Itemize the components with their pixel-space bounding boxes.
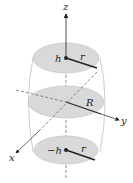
top-height-label: h — [55, 53, 61, 64]
bottom-section: −h r — [34, 136, 98, 164]
x-axis-label: x — [9, 152, 15, 163]
y-axis — [101, 114, 119, 120]
middle-radius-label: R — [85, 97, 94, 108]
y-axis-label: y — [120, 115, 127, 126]
diagram: h r z R y x −h r — [0, 0, 133, 183]
bottom-height-label: −h — [47, 145, 62, 156]
z-axis-label: z — [62, 1, 69, 12]
